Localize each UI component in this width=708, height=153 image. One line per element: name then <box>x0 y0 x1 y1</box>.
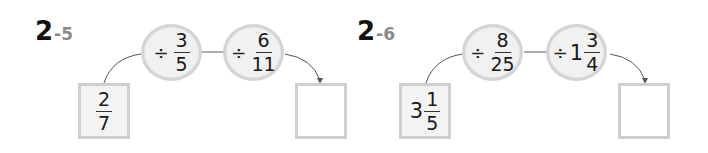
problem-number: 2 <box>357 16 375 46</box>
whole-number: 3 <box>410 99 423 123</box>
start-value-box: 2 7 <box>78 83 130 139</box>
whole-number: 1 <box>570 41 583 65</box>
connector-curve-start <box>104 54 141 83</box>
operation-circle-1: ÷ 3 5 <box>141 24 202 81</box>
denominator: 4 <box>586 53 598 74</box>
start-value-box: 3 1 5 <box>399 83 451 139</box>
operation-circle-2: ÷ 6 11 <box>223 24 284 81</box>
divide-icon: ÷ <box>231 42 246 63</box>
operation-circle-1: ÷ 8 25 <box>462 24 523 81</box>
problem-2-5: 2-5 2 7 ÷ 3 5 ÷ 6 11 <box>0 0 354 153</box>
start-fraction: 1 5 <box>424 90 440 133</box>
numerator: 3 <box>174 31 190 53</box>
divide-icon: ÷ <box>470 42 485 63</box>
numerator: 1 <box>424 90 440 112</box>
connector-curve-end <box>285 54 320 80</box>
denominator: 11 <box>251 53 275 74</box>
denominator: 7 <box>98 112 110 133</box>
denominator: 5 <box>176 53 188 74</box>
numerator: 8 <box>495 31 511 53</box>
denominator: 5 <box>426 112 438 133</box>
operand-fraction: 3 4 <box>584 31 600 74</box>
numerator: 3 <box>584 31 600 53</box>
problem-subnumber: -5 <box>54 24 73 44</box>
numerator: 6 <box>256 31 272 53</box>
problem-subnumber: -6 <box>376 24 395 44</box>
operand-fraction: 6 11 <box>251 31 275 74</box>
answer-box[interactable] <box>618 83 670 139</box>
operand-fraction: 3 5 <box>174 31 190 74</box>
divide-icon: ÷ <box>153 42 168 63</box>
problem-2-6: 2-6 3 1 5 ÷ 8 25 ÷ 1 3 4 <box>354 0 708 153</box>
problem-number: 2 <box>35 16 53 46</box>
problem-label: 2-6 <box>357 18 395 47</box>
divide-icon: ÷ <box>553 42 568 63</box>
operand-fraction: 8 25 <box>490 31 514 74</box>
answer-box[interactable] <box>295 83 347 139</box>
connector-curve-end <box>610 54 645 80</box>
denominator: 25 <box>490 53 514 74</box>
operation-circle-2: ÷ 1 3 4 <box>546 24 607 81</box>
problem-label: 2-5 <box>35 18 73 47</box>
connector-curve-start <box>426 54 463 83</box>
numerator: 2 <box>96 90 112 112</box>
start-fraction: 2 7 <box>96 90 112 133</box>
